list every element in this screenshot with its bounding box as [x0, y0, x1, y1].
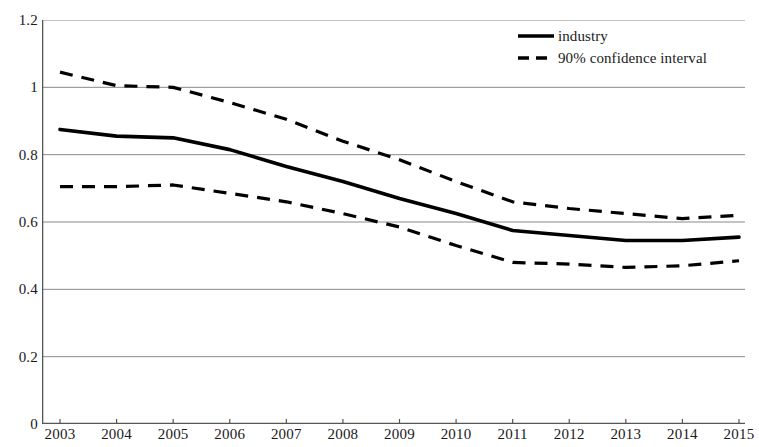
- x-tick-label: 2004: [90, 427, 144, 442]
- x-tick-label: 2005: [146, 427, 200, 442]
- x-tick-label: 2006: [203, 427, 257, 442]
- solid-line-icon: [518, 30, 554, 42]
- chart-legend: industry 90% confidence interval: [518, 25, 740, 69]
- y-tick-label: 0.6: [2, 215, 38, 230]
- x-tick-label: 2007: [259, 427, 313, 442]
- legend-item-industry: industry: [518, 25, 740, 47]
- x-tick-label: 2003: [33, 427, 87, 442]
- y-tick-label: 1.2: [2, 13, 38, 28]
- y-tick-label: 0.8: [2, 148, 38, 163]
- y-tick-label: 0.2: [2, 350, 38, 365]
- x-axis: 2003200420052006200720082009201020112012…: [42, 427, 745, 447]
- y-tick-label: 1: [2, 80, 38, 95]
- x-tick-label: 2012: [542, 427, 596, 442]
- y-tick-label: 0.4: [2, 282, 38, 297]
- x-tick-label: 2009: [373, 427, 427, 442]
- legend-label: industry: [558, 28, 608, 45]
- x-tick-label: 2013: [599, 427, 653, 442]
- x-tick-label: 2015: [712, 427, 759, 442]
- x-tick-label: 2014: [655, 427, 709, 442]
- legend-label: 90% confidence interval: [558, 50, 707, 67]
- gridlines: [42, 20, 745, 424]
- x-tick-label: 2008: [316, 427, 370, 442]
- y-axis: 1.2 1 0.8 0.6 0.4 0.2 0: [0, 0, 38, 447]
- legend-item-confidence-interval: 90% confidence interval: [518, 47, 740, 69]
- industry-line: [60, 129, 739, 240]
- dashed-line-icon: [518, 52, 554, 64]
- series-industry: [60, 129, 739, 240]
- x-tick-label: 2010: [429, 427, 483, 442]
- x-tick-label: 2011: [486, 427, 540, 442]
- chart-canvas: [42, 20, 745, 424]
- plot-area: [42, 20, 745, 424]
